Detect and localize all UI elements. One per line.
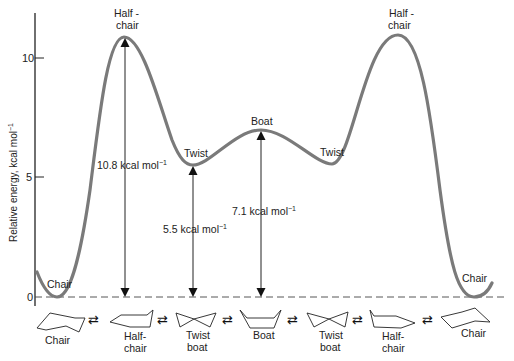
annotation-10-8: 10.8 kcal mol−1 — [97, 159, 167, 171]
tick-label-5: 5 — [26, 171, 32, 183]
state-label-halfchair-right-1: Half - — [389, 7, 415, 19]
annotation-5-5: 5.5 kcal mol−1 — [163, 223, 227, 235]
conformer-label-chair-left: Chair — [45, 334, 71, 346]
state-label-chair-right: Chair — [462, 272, 488, 284]
chair-right-icon — [441, 308, 490, 328]
state-label-halfchair-left-1: Half - — [114, 7, 140, 19]
conformer-label-halfchair-left-1: Half- — [124, 330, 147, 342]
conformer-label-chair-right: Chair — [461, 327, 487, 339]
svg-text:Relative energy, kcal mol−1: Relative energy, kcal mol−1 — [7, 123, 19, 242]
conformer-label-boat: Boat — [253, 329, 275, 341]
boat-icon — [240, 310, 281, 328]
conformer-label-twistboat-right-2: boat — [320, 341, 341, 353]
equilibrium-icon: ⇄ — [88, 312, 99, 327]
conformer-label-halfchair-right-2: chair — [382, 342, 405, 354]
state-label-twist-left: Twist — [184, 147, 208, 159]
state-label-halfchair-left-2: chair — [116, 19, 139, 31]
state-label-boat: Boat — [251, 115, 273, 127]
halfchair-left-icon — [110, 310, 153, 327]
equilibrium-icon: ⇄ — [222, 312, 233, 327]
state-label-chair-left: Chair — [47, 278, 73, 290]
state-label-twist-right: Twist — [320, 146, 344, 158]
equilibrium-arrows: ⇄ ⇄ ⇄ ⇄ ⇄ ⇄ — [88, 312, 433, 327]
state-label-halfchair-right-2: chair — [388, 19, 411, 31]
equilibrium-icon: ⇄ — [157, 312, 168, 327]
y-axis-label: Relative energy, kcal mol−1 — [7, 123, 19, 242]
chair-left-icon — [37, 313, 85, 332]
conformer-label-halfchair-right-1: Half- — [382, 330, 405, 342]
halfchair-right-icon — [370, 310, 415, 328]
tick-label-0: 0 — [27, 291, 33, 303]
conformer-label-halfchair-left-2: chair — [124, 342, 147, 354]
conformer-label-twistboat-left-2: boat — [187, 341, 208, 353]
energy-diagram: 10 5 0 Relative energy, kcal mol−1 Chair… — [0, 0, 514, 361]
annotation-7-1: 7.1 kcal mol−1 — [232, 205, 296, 217]
twistboat-right-icon — [307, 312, 348, 327]
conformer-label-twistboat-right-1: Twist — [319, 329, 343, 341]
tick-label-10: 10 — [22, 52, 34, 64]
conformer-label-twistboat-left-1: Twist — [186, 329, 210, 341]
equilibrium-icon: ⇄ — [422, 312, 433, 327]
equilibrium-icon: ⇄ — [352, 312, 363, 327]
twistboat-left-icon — [176, 313, 216, 327]
equilibrium-icon: ⇄ — [287, 312, 298, 327]
